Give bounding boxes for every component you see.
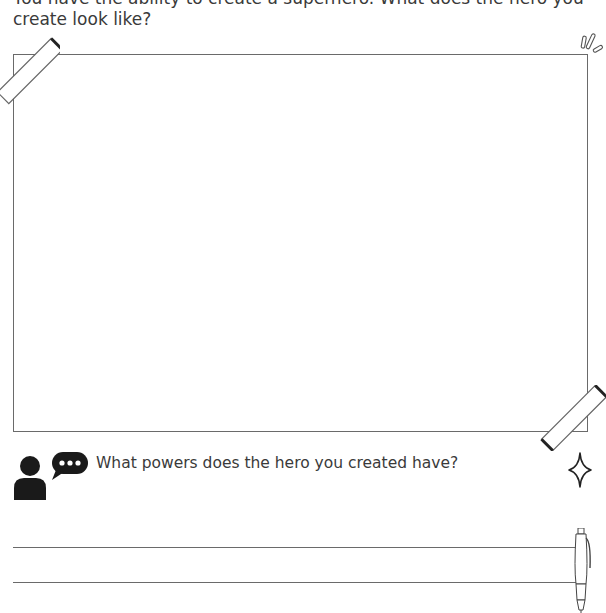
- drawing-area[interactable]: [13, 54, 588, 432]
- person-speech-bubble-icon: [12, 450, 90, 500]
- tape-top-left-icon: [0, 36, 60, 106]
- answer-line-2[interactable]: [13, 582, 578, 583]
- answer-line-1[interactable]: [13, 547, 578, 548]
- four-point-star-icon: [568, 452, 592, 488]
- tape-bottom-right-icon: [540, 385, 606, 451]
- question-text: What powers does the hero you created ha…: [96, 454, 458, 472]
- pen-icon: [570, 528, 594, 613]
- sparkle-lines-icon: [578, 30, 606, 60]
- prompt-text: You have the ability to create a superhe…: [13, 0, 593, 30]
